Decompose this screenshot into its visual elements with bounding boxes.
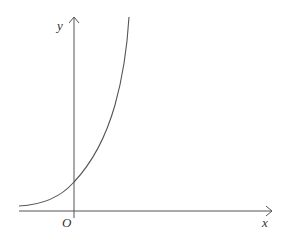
graph-canvas [0,0,289,243]
y-axis [69,17,79,218]
x-axis-label: x [262,215,268,231]
x-axis [19,206,272,216]
origin-label: O [62,215,71,231]
y-axis-label: y [57,18,63,34]
diagram: y x O [0,0,289,243]
